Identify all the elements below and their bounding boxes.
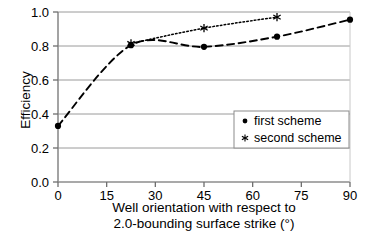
data-point-circle-icon [274,34,280,40]
data-point-circle-icon [55,123,61,129]
x-tick-label: 0 [54,188,61,203]
y-tick-label: 0.4 [31,107,49,122]
y-tick-label: 0.6 [31,73,49,88]
legend-marker-circle-icon [243,119,248,124]
y-tick-label: 0.8 [31,39,49,54]
data-point-circle-icon [201,44,207,50]
x-axis-title-line1: Well orientation with respect to [112,200,296,215]
y-axis-title: Efficiency [18,71,33,129]
legend-label-second-scheme: second scheme [254,131,342,145]
chart-figure: 0153045607590 0.00.20.40.60.81.0 Efficie… [0,0,370,241]
x-tick-label: 90 [343,188,357,203]
efficiency-line-chart: 0153045607590 0.00.20.40.60.81.0 Efficie… [0,0,370,241]
x-tick-label: 75 [294,188,308,203]
data-point-circle-icon [347,17,353,23]
x-axis-title-line2: 2.0-bounding surface strike (°) [114,216,295,231]
y-tick-label: 0.2 [31,141,49,156]
legend[interactable]: first scheme second scheme [234,111,349,148]
legend-label-first-scheme: first scheme [254,114,321,128]
y-tick-label: 0.0 [31,175,49,190]
y-tick-label: 1.0 [31,5,49,20]
